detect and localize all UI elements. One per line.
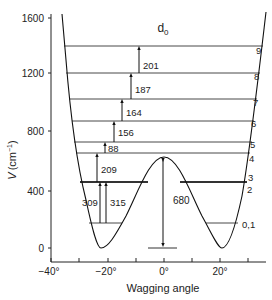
diagram-title: d0 bbox=[157, 21, 169, 37]
svg-text:4: 4 bbox=[249, 153, 254, 164]
transition-164: 164 bbox=[126, 107, 142, 118]
svg-text:0,1: 0,1 bbox=[242, 219, 255, 230]
y-axis-label: V(cm−1) bbox=[6, 140, 18, 179]
x-tick-label: 20° bbox=[212, 266, 227, 277]
transition-187: 187 bbox=[135, 84, 151, 95]
y-tick-label: 800 bbox=[27, 126, 44, 137]
svg-text:5: 5 bbox=[250, 139, 255, 150]
svg-text:7: 7 bbox=[253, 97, 258, 108]
transition-labels: 309 315 209 88 156 164 187 201 bbox=[82, 60, 159, 208]
svg-text:V(cm−1): V(cm−1) bbox=[6, 140, 18, 179]
x-axis-label: Wagging angle bbox=[127, 282, 200, 294]
x-tick-label: −20° bbox=[96, 266, 117, 277]
energy-level-diagram: 0 400 800 1200 1600 V(cm−1) −40° −20° 0°… bbox=[0, 0, 272, 300]
x-tick-label: −40° bbox=[39, 266, 60, 277]
x-tick-label: 0° bbox=[159, 266, 169, 277]
svg-text:9: 9 bbox=[256, 45, 261, 56]
diagram-canvas: 0 400 800 1200 1600 V(cm−1) −40° −20° 0°… bbox=[0, 0, 272, 300]
transition-156: 156 bbox=[118, 127, 134, 138]
transition-309: 309 bbox=[82, 197, 98, 208]
svg-text:8: 8 bbox=[254, 71, 259, 82]
potential-curve bbox=[62, 12, 266, 248]
svg-text:2: 2 bbox=[247, 184, 252, 195]
x-ticks bbox=[51, 258, 248, 262]
svg-text:6: 6 bbox=[251, 118, 256, 129]
y-tick-label: 0 bbox=[38, 243, 44, 254]
transition-315: 315 bbox=[110, 197, 126, 208]
y-tick-label: 400 bbox=[27, 186, 44, 197]
svg-text:3: 3 bbox=[248, 172, 253, 183]
y-tick-label: 1200 bbox=[22, 68, 45, 79]
transition-88: 88 bbox=[108, 143, 119, 154]
transition-209: 209 bbox=[101, 164, 117, 175]
transition-201: 201 bbox=[143, 60, 159, 71]
y-tick-label: 1600 bbox=[22, 13, 45, 24]
barrier-value: 680 bbox=[173, 195, 190, 206]
